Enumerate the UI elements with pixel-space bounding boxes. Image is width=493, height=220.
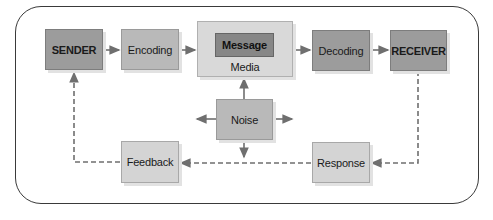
arrow-receiver-response (372, 71, 418, 163)
media-node: Message Media (197, 21, 293, 77)
response-node: Response (312, 142, 370, 183)
feedback-node: Feedback (121, 141, 179, 183)
sender-node: SENDER (45, 29, 103, 70)
arrow-feedback-sender (74, 73, 120, 162)
media-label: Media (231, 61, 260, 73)
encoding-node: Encoding (121, 29, 179, 70)
noise-node: Noise (216, 99, 273, 140)
decoding-node: Decoding (312, 30, 370, 71)
receiver-node: RECEIVER (390, 30, 447, 71)
message-node: Message (215, 33, 274, 57)
